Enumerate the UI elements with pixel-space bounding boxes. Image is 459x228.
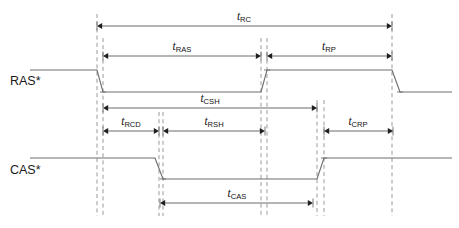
measurement-tcsh: tCSH	[103, 92, 317, 113]
measurement-trc: tRC	[97, 10, 392, 31]
arrow-right-icon	[154, 128, 159, 134]
measurement-label-trc: tRC	[237, 10, 252, 24]
measurement-subscript: CRP	[352, 120, 368, 129]
arrow-left-icon	[103, 128, 108, 134]
measurement-tcrp: tCRP	[324, 115, 393, 136]
measurement-label-tras: tRAS	[173, 40, 192, 54]
signal-label-cas: CAS*	[10, 163, 41, 177]
arrow-left-icon	[163, 128, 168, 134]
waveform-ras	[30, 70, 452, 92]
measurement-subscript: RP	[325, 45, 336, 54]
arrow-right-icon	[308, 200, 313, 206]
arrow-right-icon	[387, 23, 392, 29]
arrow-right-icon	[387, 53, 392, 59]
measurement-label-trp: tRP	[322, 40, 336, 54]
measurement-subscript: CSH	[204, 97, 220, 106]
signal-label-ras: RAS*	[10, 74, 41, 88]
measurement-subscript: RSH	[208, 120, 224, 129]
measurement-subscript: RC	[240, 15, 251, 24]
measurement-label-tcas: tCAS	[228, 187, 247, 201]
measurement-trp: tRP	[267, 40, 392, 61]
measurement-trcd: tRCD	[103, 115, 159, 136]
arrow-left-icon	[103, 53, 108, 59]
arrow-left-icon	[97, 23, 102, 29]
waveform-cas	[30, 158, 452, 179]
measurement-label-trcd: tRCD	[121, 115, 141, 129]
arrow-right-icon	[256, 53, 261, 59]
measurement-subscript: RCD	[124, 120, 141, 129]
signal-labels-group: RAS*CAS*	[10, 74, 41, 177]
arrow-right-icon	[312, 105, 317, 111]
measurement-tras: tRAS	[103, 40, 261, 61]
arrow-right-icon	[260, 128, 265, 134]
measurement-arrows-group: tRCtRAStRPtCSHtRCDtRSHtCRPtCAS	[97, 10, 393, 208]
timing-diagram-canvas: tRCtRAStRPtCSHtRCDtRSHtCRPtCAS RAS*CAS*	[0, 0, 459, 228]
measurement-subscript: CAS	[231, 192, 247, 201]
waveforms-group	[30, 70, 452, 179]
measurement-trsh: tRSH	[163, 115, 265, 136]
measurement-tcas: tCAS	[160, 187, 313, 208]
arrow-left-icon	[103, 105, 108, 111]
timing-diagram: tRCtRAStRPtCSHtRCDtRSHtCRPtCAS RAS*CAS*	[0, 0, 459, 228]
arrow-left-icon	[324, 128, 329, 134]
arrow-left-icon	[267, 53, 272, 59]
measurement-subscript: RAS	[176, 45, 192, 54]
measurement-label-trsh: tRSH	[204, 115, 223, 129]
measurement-label-tcrp: tCRP	[348, 115, 367, 129]
measurement-label-tcsh: tCSH	[200, 92, 219, 106]
